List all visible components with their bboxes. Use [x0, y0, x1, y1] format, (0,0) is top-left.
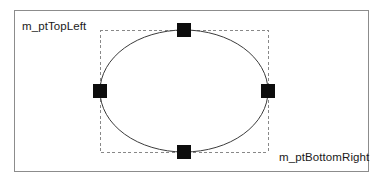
bounding-rect — [100, 30, 268, 152]
right-handle[interactable] — [261, 84, 275, 98]
diagram-screenshot: m_ptTopLeft m_ptBottomRight — [0, 0, 383, 183]
left-handle[interactable] — [93, 84, 107, 98]
inscribed-ellipse — [100, 30, 268, 152]
top-handle[interactable] — [177, 23, 191, 37]
label-bottom-right: m_ptBottomRight — [279, 151, 369, 164]
label-top-left: m_ptTopLeft — [22, 20, 86, 33]
bottom-handle[interactable] — [177, 145, 191, 159]
